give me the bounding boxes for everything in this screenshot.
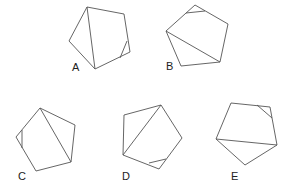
diagonal-line: [123, 105, 161, 155]
pentagon-figure: A B C D E: [0, 0, 292, 189]
option-label: B: [166, 60, 173, 72]
pentagon-outline: [123, 105, 182, 169]
option-label: A: [72, 61, 80, 73]
option-d[interactable]: D: [122, 105, 182, 182]
corner-cut-line: [186, 11, 205, 13]
option-label: C: [18, 170, 26, 182]
option-c[interactable]: C: [16, 108, 75, 182]
option-label: E: [231, 170, 238, 182]
diagonal-line: [87, 7, 95, 69]
pentagon-outline: [216, 103, 277, 165]
pentagon-outline: [166, 5, 228, 66]
pentagon-outline: [69, 7, 130, 69]
diagonal-line: [40, 108, 71, 162]
option-e[interactable]: E: [216, 103, 277, 182]
option-a[interactable]: A: [69, 7, 130, 73]
diagonal-line: [216, 139, 277, 145]
option-label: D: [122, 170, 130, 182]
diagonal-line: [166, 31, 220, 62]
option-b[interactable]: B: [166, 5, 228, 72]
